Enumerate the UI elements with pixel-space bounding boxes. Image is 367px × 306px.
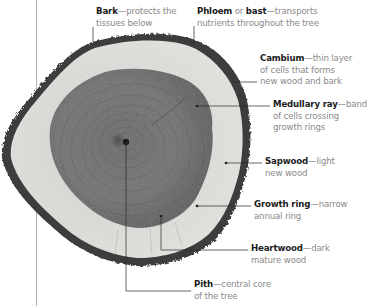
label-cambium: Cambium—thin layer of cells that forms n…	[260, 53, 352, 88]
desc-pith: central core	[221, 279, 271, 289]
label-growth-ring: Growth ring—narrow annual ring	[254, 199, 347, 222]
desc-sapwood: light	[316, 156, 334, 166]
desc-heartwood: dark	[311, 243, 330, 253]
desc-medullary-ray: band	[346, 99, 367, 109]
term-growth-ring: Growth ring	[254, 199, 310, 209]
term-phloem: Phloem	[197, 6, 232, 16]
label-pith: Pith—central core of the tree	[194, 279, 271, 302]
term-bark: Bark	[96, 6, 118, 16]
term-bast: bast	[246, 6, 267, 16]
label-bark: Bark—protects the tissues below	[96, 6, 176, 29]
term-heartwood: Heartwood	[251, 243, 303, 253]
label-sapwood: Sapwood—light new wood	[265, 156, 335, 179]
term-medullary-ray: Medullary ray	[273, 99, 338, 109]
term-cambium: Cambium	[260, 53, 304, 63]
term-pith: Pith	[194, 279, 213, 289]
desc-growth-ring: narrow	[319, 199, 348, 209]
desc-phloem: transports	[275, 6, 318, 16]
label-heartwood: Heartwood—dark mature wood	[251, 243, 330, 266]
desc-cambium: thin layer	[313, 53, 352, 63]
desc-bark: protects the	[126, 6, 176, 16]
label-phloem: Phloem or bast—transports nutrients thro…	[197, 6, 319, 29]
term-sapwood: Sapwood	[265, 156, 308, 166]
label-medullary-ray: Medullary ray—band of cells crossing gro…	[273, 99, 367, 134]
